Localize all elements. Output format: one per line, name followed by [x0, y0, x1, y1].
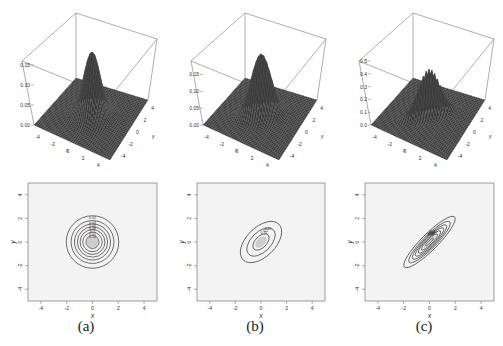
svg-text:0: 0 [473, 129, 476, 135]
contour-plot-b: 0.050.10.15-4-2024-4-2024xy [175, 183, 333, 331]
svg-text:-2: -2 [388, 141, 393, 147]
svg-text:2: 2 [251, 155, 254, 161]
svg-text:2: 2 [82, 155, 85, 161]
svg-text:4: 4 [320, 105, 323, 111]
svg-text:2: 2 [481, 117, 484, 123]
svg-text:2: 2 [285, 305, 288, 311]
svg-text:-4: -4 [458, 153, 463, 159]
contour-plot-a: 0.020.040.060.080.10.120.14-4-2024-4-202… [6, 183, 165, 331]
svg-text:0.2: 0.2 [360, 96, 367, 102]
contour-plot-c: 0.050.10.150.20.250.30.35-4-2024-4-2024x… [343, 183, 502, 331]
surface-plot-b: 0.000.050.100.15-4-2024x-4-2024y [169, 0, 339, 180]
svg-text:2: 2 [313, 117, 316, 123]
svg-text:y: y [488, 133, 492, 139]
svg-text:0.15: 0.15 [20, 62, 30, 68]
svg-text:0.0: 0.0 [360, 122, 367, 128]
svg-text:0.10: 0.10 [189, 88, 199, 94]
svg-text:0.35: 0.35 [427, 233, 434, 237]
svg-text:4: 4 [143, 305, 146, 311]
svg-text:0: 0 [17, 240, 23, 243]
svg-text:0: 0 [428, 305, 431, 311]
svg-text:x: x [65, 147, 69, 153]
svg-text:2: 2 [186, 217, 192, 220]
svg-text:4: 4 [354, 193, 360, 196]
caption-a: (a) [56, 318, 116, 335]
svg-text:-2: -2 [51, 141, 56, 147]
svg-text:-2: -2 [233, 305, 238, 311]
svg-text:0: 0 [354, 240, 360, 243]
svg-text:-4: -4 [354, 287, 360, 292]
svg-text:0.4: 0.4 [360, 71, 367, 77]
svg-text:-4: -4 [39, 305, 44, 311]
svg-text:-2: -2 [64, 305, 69, 311]
svg-text:-4: -4 [372, 134, 377, 140]
svg-text:4: 4 [488, 105, 491, 111]
svg-text:-4: -4 [17, 287, 23, 292]
svg-text:-4: -4 [290, 153, 295, 159]
svg-text:0.15: 0.15 [260, 231, 267, 235]
svg-text:y: y [320, 133, 324, 139]
svg-text:0.00: 0.00 [20, 122, 30, 128]
svg-text:0.14: 0.14 [89, 235, 96, 239]
svg-text:0: 0 [136, 129, 139, 135]
svg-text:0.10: 0.10 [20, 82, 30, 88]
svg-text:y: y [9, 240, 17, 245]
svg-text:2: 2 [117, 305, 120, 311]
svg-text:-2: -2 [354, 263, 360, 268]
svg-text:0.05: 0.05 [189, 105, 199, 111]
svg-text:2: 2 [454, 305, 457, 311]
svg-text:2: 2 [354, 217, 360, 220]
svg-text:-4: -4 [376, 305, 381, 311]
svg-text:-2: -2 [128, 141, 133, 147]
svg-text:0: 0 [186, 240, 192, 243]
svg-text:4: 4 [311, 305, 314, 311]
surface-plot-c: 0.00.10.20.30.40.5-4-2024x-4-2024y [337, 0, 503, 180]
svg-text:-2: -2 [220, 141, 225, 147]
svg-text:2: 2 [17, 217, 23, 220]
svg-text:2: 2 [419, 155, 422, 161]
svg-text:x: x [402, 147, 406, 153]
svg-text:4: 4 [480, 305, 483, 311]
caption-b: (b) [225, 318, 285, 335]
svg-text:-4: -4 [208, 305, 213, 311]
svg-text:-4: -4 [186, 287, 192, 292]
svg-text:4: 4 [151, 105, 154, 111]
svg-text:-2: -2 [186, 263, 192, 268]
svg-text:y: y [151, 133, 155, 139]
svg-text:0.05: 0.05 [20, 102, 30, 108]
svg-text:-4: -4 [121, 153, 126, 159]
svg-text:-4: -4 [204, 134, 209, 140]
svg-text:-2: -2 [17, 263, 23, 268]
svg-text:4: 4 [97, 162, 100, 168]
svg-text:0.1: 0.1 [360, 109, 367, 115]
surface-plot-a: 0.000.050.100.15-4-2024x-4-2024y [0, 0, 170, 180]
svg-text:0.3: 0.3 [360, 84, 367, 90]
svg-text:0.15: 0.15 [189, 71, 199, 77]
svg-text:0.5: 0.5 [360, 58, 367, 64]
svg-text:-2: -2 [465, 141, 470, 147]
svg-text:4: 4 [434, 162, 437, 168]
svg-text:-2: -2 [401, 305, 406, 311]
svg-text:0: 0 [91, 305, 94, 311]
svg-text:0: 0 [305, 129, 308, 135]
svg-text:0.02: 0.02 [89, 216, 96, 220]
svg-text:x: x [234, 147, 238, 153]
svg-text:0.00: 0.00 [189, 122, 199, 128]
svg-text:-2: -2 [297, 141, 302, 147]
svg-text:y: y [178, 240, 186, 245]
svg-text:2: 2 [144, 117, 147, 123]
caption-c: (c) [394, 318, 454, 335]
svg-text:0: 0 [260, 305, 263, 311]
svg-text:y: y [346, 240, 354, 245]
svg-text:4: 4 [266, 162, 269, 168]
svg-text:4: 4 [186, 193, 192, 196]
svg-text:4: 4 [17, 193, 23, 196]
svg-text:-4: -4 [35, 134, 40, 140]
